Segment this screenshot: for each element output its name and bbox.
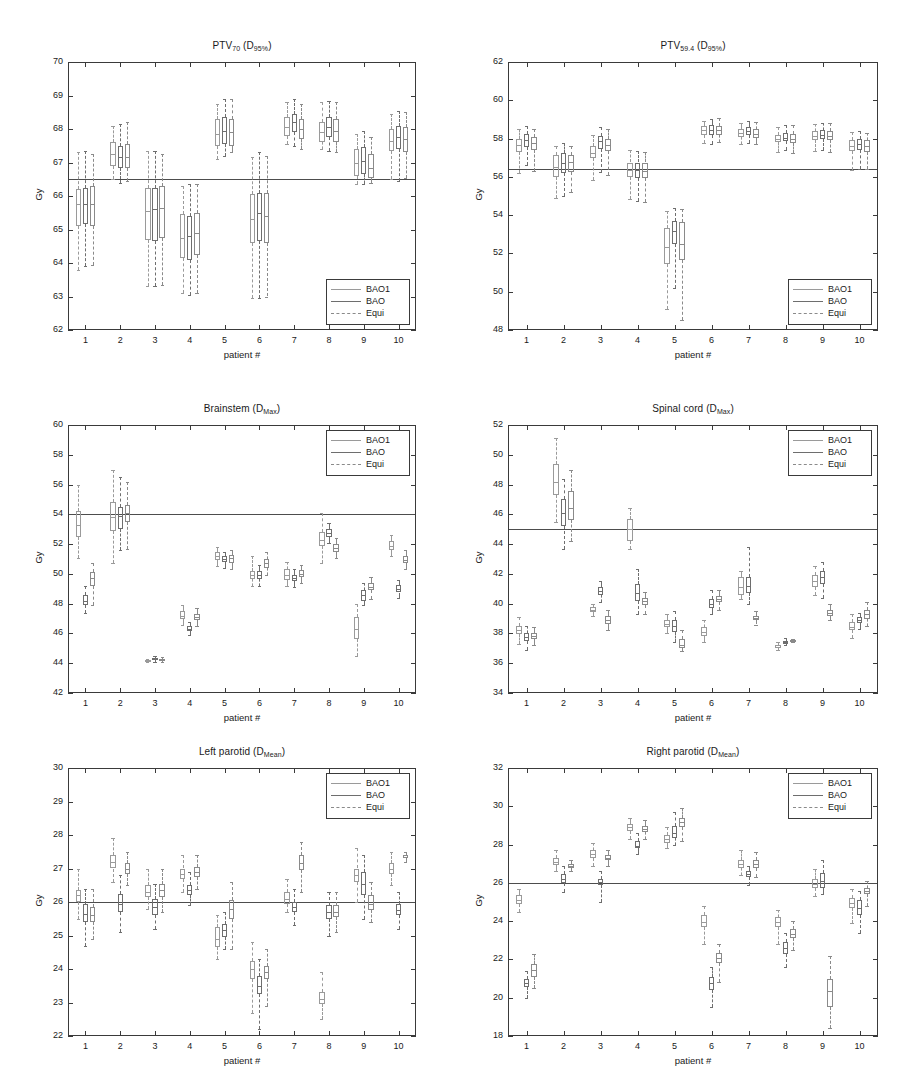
whisker-upper	[830, 956, 831, 979]
median-line	[590, 854, 596, 855]
x-tickmark	[823, 1031, 824, 1036]
legend-rightparotid: BAO1BAOEqui	[788, 773, 872, 819]
whisker-cap-lower	[754, 877, 757, 878]
legend-row: BAO	[793, 789, 866, 801]
whisker-cap-upper	[591, 843, 594, 844]
y-tickmark	[508, 845, 513, 846]
whisker-lower	[815, 888, 816, 897]
whisker-cap-upper	[747, 866, 750, 867]
y-tick-label: 32	[472, 762, 503, 772]
whisker-lower	[756, 868, 757, 878]
legend-row: BAO1	[793, 777, 866, 789]
whisker-cap-lower	[554, 871, 557, 872]
y-tickmark-right	[873, 921, 878, 922]
x-tick-label: 2	[550, 1041, 578, 1051]
whisker-cap-upper	[717, 944, 720, 945]
x-tickmark	[712, 1031, 713, 1036]
legend-label: Equi	[828, 802, 846, 812]
median-line	[812, 884, 818, 885]
whisker-cap-upper	[739, 850, 742, 851]
y-tickmark-right	[873, 845, 878, 846]
whisker-lower	[778, 927, 779, 944]
median-line	[679, 822, 685, 823]
x-tickmark	[749, 1031, 750, 1036]
median-line	[709, 983, 715, 984]
panel-title-subscript: Mean	[718, 751, 736, 758]
legend-line-bao1	[793, 783, 823, 784]
legend-line-equi	[793, 807, 823, 808]
x-tickmark-top	[712, 768, 713, 773]
median-line	[746, 874, 752, 875]
whisker-lower	[830, 1007, 831, 1028]
whisker-lower	[601, 885, 602, 902]
median-line	[598, 882, 604, 883]
whisker-upper	[860, 891, 861, 901]
whisker-upper	[741, 850, 742, 860]
y-tick-label: 28	[472, 839, 503, 849]
whisker-cap-upper	[754, 852, 757, 853]
whisker-cap-upper	[776, 910, 779, 911]
x-tickmark-top	[527, 768, 528, 773]
whisker-cap-lower	[858, 933, 861, 934]
x-tickmark	[564, 1031, 565, 1036]
y-tickmark	[508, 959, 513, 960]
whisker-cap-lower	[791, 950, 794, 951]
whisker-lower	[704, 927, 705, 944]
whisker-lower	[630, 831, 631, 839]
median-line	[790, 934, 796, 935]
whisker-upper	[712, 967, 713, 977]
median-line	[605, 858, 611, 859]
median-line	[531, 970, 537, 971]
legend-row: Equi	[793, 801, 866, 813]
whisker-upper	[519, 889, 520, 896]
median-line	[568, 866, 574, 867]
x-tickmark-top	[564, 768, 565, 773]
y-tickmark-right	[873, 959, 878, 960]
whisker-upper	[719, 944, 720, 953]
whisker-cap-lower	[747, 885, 750, 886]
x-tickmark-top	[601, 768, 602, 773]
whisker-cap-lower	[532, 988, 535, 989]
whisker-upper	[556, 850, 557, 858]
whisker-cap-upper	[562, 866, 565, 867]
y-tickmark-right	[873, 806, 878, 807]
whisker-cap-upper	[643, 820, 646, 821]
whisker-upper	[645, 820, 646, 827]
x-tickmark-top	[675, 768, 676, 773]
whisker-lower	[645, 832, 646, 839]
median-line	[672, 833, 678, 834]
whisker-upper	[564, 866, 565, 875]
whisker-lower	[556, 865, 557, 872]
box-plot	[827, 979, 833, 1008]
x-tickmark	[675, 1031, 676, 1036]
whisker-cap-upper	[710, 967, 713, 968]
whisker-lower	[682, 827, 683, 840]
whisker-upper	[823, 860, 824, 873]
median-line	[738, 864, 744, 865]
whisker-upper	[778, 910, 779, 918]
whisker-lower	[534, 977, 535, 988]
whisker-upper	[601, 871, 602, 879]
whisker-lower	[719, 963, 720, 982]
whisker-upper	[793, 921, 794, 929]
median-line	[635, 846, 641, 847]
whisker-cap-lower	[606, 866, 609, 867]
y-tickmark	[508, 921, 513, 922]
whisker-cap-lower	[665, 848, 668, 849]
x-tickmark-top	[638, 768, 639, 773]
x-tick-label: 9	[809, 1041, 837, 1051]
median-line	[827, 991, 833, 992]
whisker-upper	[593, 843, 594, 851]
x-tick-label: 6	[698, 1041, 726, 1051]
whisker-cap-upper	[554, 850, 557, 851]
whisker-cap-lower	[643, 839, 646, 840]
median-line	[864, 891, 870, 892]
median-line	[716, 958, 722, 959]
x-tickmark-top	[749, 768, 750, 773]
whisker-lower	[852, 908, 853, 923]
legend-label: BAO	[828, 790, 847, 800]
median-line	[664, 839, 670, 840]
x-tickmark	[601, 1031, 602, 1036]
whisker-cap-lower	[680, 841, 683, 842]
whisker-lower	[860, 915, 861, 932]
